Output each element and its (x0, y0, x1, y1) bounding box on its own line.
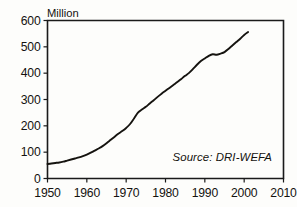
x-tick-label: 1980 (152, 186, 179, 200)
x-tick-label: 2010 (270, 186, 297, 200)
chart-figure: 0100200300400500600 19501960197019801990… (0, 0, 297, 207)
y-tick-label: 400 (21, 66, 41, 80)
y-axis-title: Million (47, 7, 79, 19)
y-tick-label: 600 (21, 14, 41, 28)
y-tick-label: 200 (21, 119, 41, 133)
y-tick-label: 0 (34, 172, 41, 186)
y-tick-label: 500 (21, 40, 41, 54)
x-tick-label: 2000 (231, 186, 258, 200)
x-tick-label: 1950 (34, 186, 61, 200)
y-tick-label: 100 (21, 145, 41, 159)
line-chart: 0100200300400500600 19501960197019801990… (0, 0, 297, 207)
y-tick-label: 300 (21, 93, 41, 107)
x-tick-label: 1960 (74, 186, 101, 200)
x-tick-label: 1990 (192, 186, 219, 200)
source-note: Source: DRI-WEFA (173, 151, 273, 163)
x-tick-label: 1970 (113, 186, 140, 200)
